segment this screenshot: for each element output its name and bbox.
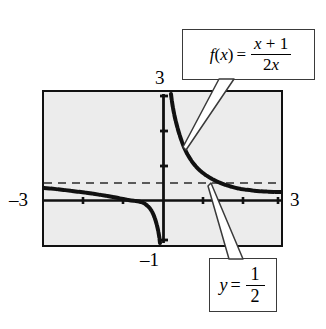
callout-pointer-layer (0, 0, 326, 329)
function-callout-pointer (183, 79, 234, 150)
graph-figure: –3 3 3 –1 f(x) = x + 1 2x y = 1 2 (0, 0, 326, 329)
asymptote-callout-pointer (208, 183, 243, 259)
